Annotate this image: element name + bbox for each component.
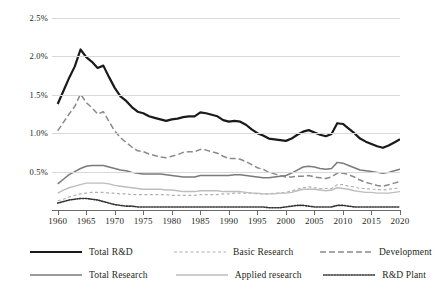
plot-area [52, 18, 400, 210]
legend-row: Total ResearchApplied researchR&D Plant [30, 263, 430, 286]
legend-label-total-research: Total Research [89, 270, 148, 280]
x-axis-tick [58, 210, 59, 215]
legend-swatch-applied-research-icon [176, 270, 228, 280]
x-axis-tick-label: 2020 [391, 216, 410, 226]
series-lines [52, 18, 400, 210]
x-axis-tick-label: 2000 [276, 216, 295, 226]
legend-item-rd-plant[interactable]: R&D Plant [323, 270, 430, 280]
x-axis-tick [86, 210, 87, 215]
legend-label-basic-research: Basic Research [233, 247, 293, 257]
x-axis-line [52, 210, 400, 211]
legend-item-applied-research[interactable]: Applied research [176, 270, 324, 280]
x-axis-tick-label: 1965 [77, 216, 96, 226]
legend-swatch-total-rd-icon [30, 247, 82, 257]
y-axis-tick-labels: 0.5%1.0%1.5%2.0%2.5% [0, 18, 48, 210]
x-axis-tick [200, 210, 201, 215]
y-axis-tick-label: 1.5% [29, 90, 48, 100]
x-axis-tick [143, 210, 144, 215]
legend-label-development: Development [379, 247, 432, 257]
legend-label-rd-plant: R&D Plant [382, 270, 426, 280]
x-axis-tick-label: 2005 [305, 216, 324, 226]
gridline [52, 56, 400, 57]
gridline [52, 172, 400, 173]
legend-item-basic-research[interactable]: Basic Research [174, 247, 320, 257]
legend-item-development[interactable]: Development [320, 247, 430, 257]
legend-swatch-total-research-icon [30, 270, 82, 280]
legend-item-total-rd[interactable]: Total R&D [30, 247, 174, 257]
legend-swatch-rd-plant-icon [323, 270, 375, 280]
gridline [52, 133, 400, 134]
x-axis-tick-label: 1980 [162, 216, 181, 226]
x-axis-tick-label: 1970 [105, 216, 124, 226]
y-axis-tick-label: 2.5% [29, 13, 48, 23]
legend-label-total-rd: Total R&D [89, 247, 133, 257]
series-line-basic-research [58, 185, 400, 201]
x-axis-tick [286, 210, 287, 215]
x-axis-tick [400, 210, 401, 215]
x-axis-tick-label: 1995 [248, 216, 267, 226]
gridline [52, 95, 400, 96]
y-axis-tick-label: 0.5% [29, 167, 48, 177]
x-axis-tick [115, 210, 116, 215]
legend-label-applied-research: Applied research [235, 270, 302, 280]
x-axis-tick [229, 210, 230, 215]
x-axis-tick-label: 2015 [362, 216, 381, 226]
x-axis-tick-label: 2010 [334, 216, 353, 226]
x-axis-tick-label: 1985 [191, 216, 210, 226]
legend-swatch-development-icon [320, 247, 372, 257]
y-axis-tick-label: 1.0% [29, 128, 48, 138]
x-axis-tick [371, 210, 372, 215]
chart-container: 0.5%1.0%1.5%2.0%2.5% 1960196519701975198… [0, 0, 446, 293]
x-axis-tick [257, 210, 258, 215]
series-line-r-d-plant [58, 198, 400, 207]
y-axis-tick-label: 2.0% [29, 51, 48, 61]
legend-item-total-research[interactable]: Total Research [30, 270, 176, 280]
x-axis-tick [172, 210, 173, 215]
chart-legend: Total R&DBasic ResearchDevelopmentTotal … [30, 240, 430, 286]
series-line-applied-research [58, 183, 400, 194]
x-axis-tick [314, 210, 315, 215]
x-axis-tick-label: 1960 [48, 216, 67, 226]
gridline [52, 18, 400, 19]
legend-swatch-basic-research-icon [174, 247, 226, 257]
x-axis-tick-label: 1990 [219, 216, 238, 226]
x-axis-tick [343, 210, 344, 215]
series-line-total-research [58, 162, 400, 184]
legend-row: Total R&DBasic ResearchDevelopment [30, 240, 430, 263]
x-axis-tick-label: 1975 [134, 216, 153, 226]
